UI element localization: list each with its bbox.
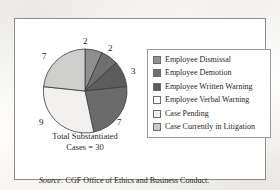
legend-swatch-employee-written-warning — [153, 83, 161, 91]
legend-swatch-employee-demotion — [153, 69, 161, 77]
legend-item-case-pending: Case Pending — [153, 108, 266, 119]
pie-label-case-pending: 9 — [39, 118, 44, 127]
chart-caption: Total Substantiated Cases = 30 — [25, 131, 145, 154]
legend-label-case-pending: Case Pending — [165, 110, 209, 118]
pie-chart: 2 2 3 7 9 7 — [29, 39, 141, 139]
pie-label-employee-demotion: 2 — [108, 44, 113, 53]
legend-item-employee-dismissal: Employee Dismissal — [153, 54, 266, 65]
chart-legend: Employee Dismissal Employee Demotion Emp… — [147, 49, 271, 138]
pie-label-employee-verbal-warning: 7 — [117, 118, 122, 127]
legend-label-employee-dismissal: Employee Dismissal — [165, 56, 231, 64]
legend-swatch-employee-verbal-warning — [153, 96, 161, 104]
legend-swatch-employee-dismissal — [153, 56, 161, 64]
legend-label-employee-demotion: Employee Demotion — [165, 69, 231, 77]
pie-label-employee-written-warning: 3 — [131, 67, 136, 76]
pie-slice-case-currently-in-litigation — [44, 49, 85, 91]
source-label: Source: — [39, 176, 64, 185]
figure-frame: 2 2 3 7 9 7 Total Substantiated Cases = … — [14, 18, 266, 180]
legend-label-employee-written-warning: Employee Written Warning — [165, 83, 253, 91]
caption-line-2: Cases = 30 — [25, 142, 145, 153]
legend-item-employee-written-warning: Employee Written Warning — [153, 81, 266, 92]
legend-item-case-currently-in-litigation: Case Currently in Litigation — [153, 122, 266, 133]
legend-label-employee-verbal-warning: Employee Verbal Warning — [165, 96, 249, 104]
caption-line-1: Total Substantiated — [25, 131, 145, 142]
figure-page: 2 2 3 7 9 7 Total Substantiated Cases = … — [0, 0, 280, 190]
legend-label-case-currently-in-litigation: Case Currently in Litigation — [165, 123, 255, 131]
legend-swatch-case-pending — [153, 110, 161, 118]
legend-item-employee-demotion: Employee Demotion — [153, 68, 266, 79]
legend-swatch-case-currently-in-litigation — [153, 123, 161, 131]
source-note: Source: CGF Office of Ethics and Busines… — [39, 176, 209, 185]
pie-label-employee-dismissal: 2 — [83, 37, 88, 46]
pie-label-case-currently-in-litigation: 7 — [42, 52, 47, 61]
legend-item-employee-verbal-warning: Employee Verbal Warning — [153, 95, 266, 106]
source-text: CGF Office of Ethics and Business Conduc… — [66, 176, 210, 185]
